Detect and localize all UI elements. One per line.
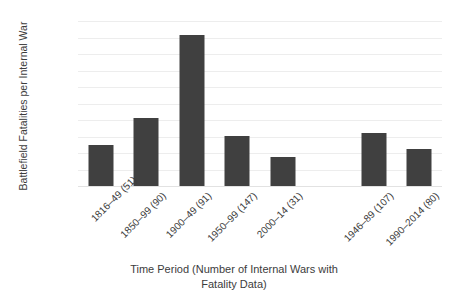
bar-slot	[215, 21, 261, 186]
x-tick-label: 1816–49 (51)	[89, 190, 123, 224]
bar-slot	[306, 21, 352, 186]
x-axis-title-line2: Fatality Data)	[0, 277, 468, 292]
bar	[225, 136, 250, 186]
x-tick-labels: 1816–49 (51)1850–99 (90)1900–49 (91)1950…	[78, 186, 442, 256]
bar-slot	[78, 21, 124, 186]
bar	[179, 35, 204, 186]
bar	[88, 145, 113, 186]
y-axis-title: Battlefield Fatalities per Internal War	[17, 6, 29, 206]
bar	[361, 133, 386, 186]
bar-slot	[397, 21, 443, 186]
plot-area: 5000045000400003500030000250002000015000…	[78, 21, 442, 186]
bar	[270, 157, 295, 186]
x-axis-title-line1: Time Period (Number of Internal Wars wit…	[130, 263, 338, 275]
clipped-title-trace	[0, 0, 468, 4]
bar-slot	[124, 21, 170, 186]
bar-slot	[169, 21, 215, 186]
x-axis-title: Time Period (Number of Internal Wars wit…	[0, 262, 468, 292]
bar	[134, 118, 159, 186]
bar-slot	[351, 21, 397, 186]
bar-series	[78, 21, 442, 186]
bar-slot	[260, 21, 306, 186]
bar	[407, 149, 432, 186]
